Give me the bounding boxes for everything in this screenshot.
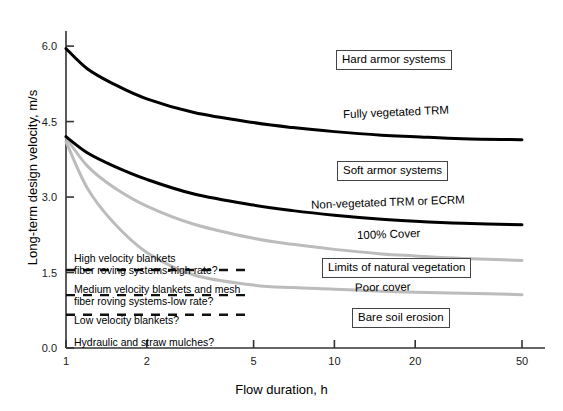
annotation-soft-armor-systems: Soft armor systems bbox=[337, 161, 448, 181]
threshold-label-high-velocity-line2: fiber roving systems-high rate? bbox=[74, 264, 218, 277]
x-tick-label: 20 bbox=[409, 355, 421, 367]
threshold-label-hydraulic-straw-mulches: Hydraulic and straw mulches? bbox=[74, 336, 214, 349]
y-tick-label: 3.0 bbox=[42, 191, 57, 203]
threshold-label-medium-velocity-line1: Medium velocity blankets and mesh bbox=[74, 283, 240, 296]
chart-figure: 0.01.53.04.56.0125102050 Long-term desig… bbox=[0, 0, 563, 411]
threshold-label-high-velocity-line1: High velocity blankets bbox=[74, 252, 176, 265]
x-tick-label: 5 bbox=[251, 355, 257, 367]
series-line-non-vegetated-trm-or-ecrm bbox=[66, 137, 522, 225]
y-tick-label: 1.5 bbox=[42, 267, 57, 279]
y-tick-label: 6.0 bbox=[42, 40, 57, 52]
annotation-bare-soil-erosion: Bare soil erosion bbox=[352, 308, 450, 328]
chart-canvas: 0.01.53.04.56.0125102050 bbox=[0, 0, 563, 411]
annotation-limits-of-natural-vegetation: Limits of natural vegetation bbox=[322, 258, 471, 278]
x-axis-title: Flow duration, h bbox=[0, 382, 563, 397]
annotation-poor-cover: Poor cover bbox=[355, 280, 411, 293]
y-tick-label: 0.0 bbox=[42, 342, 57, 354]
y-axis-title: Long-term design velocity, m/s bbox=[25, 68, 40, 288]
threshold-label-low-velocity-blankets: Low velocity blankets? bbox=[74, 314, 179, 327]
x-tick-label: 1 bbox=[63, 355, 69, 367]
x-tick-label: 10 bbox=[328, 355, 340, 367]
annotation-hard-armor-systems: Hard armor systems bbox=[336, 50, 452, 70]
annotation-100-percent-cover: 100% Cover bbox=[357, 227, 421, 241]
series-line-fully-vegetated-trm bbox=[66, 49, 522, 140]
threshold-label-medium-velocity-line2: fiber roving systems-low rate? bbox=[74, 295, 213, 308]
y-tick-label: 4.5 bbox=[42, 116, 57, 128]
x-tick-label: 50 bbox=[516, 355, 528, 367]
x-tick-label: 2 bbox=[144, 355, 150, 367]
